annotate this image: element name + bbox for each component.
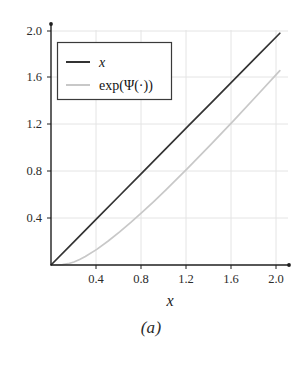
y-tick-label: 1.2 [26,117,42,131]
figure-container: 0.4 0.8 1.2 1.6 2.0 0.4 0.8 1.2 1.6 2.0 … [0,0,302,368]
figure-caption: (a) [0,318,302,338]
x-tick-label: 0.4 [88,272,104,286]
x-tick-label: 1.2 [178,272,194,286]
x-tick-label: 0.8 [133,272,149,286]
x-axis-title: x [165,292,173,309]
y-tick-label: 0.8 [26,164,42,178]
y-tick-labels: 0.4 0.8 1.2 1.6 2.0 [26,24,42,225]
y-axis-arrow-icon [49,22,53,26]
x-tick-labels: 0.4 0.8 1.2 1.6 2.0 [88,272,284,286]
x-tick-label: 2.0 [268,272,284,286]
x-tick-label: 1.6 [223,272,239,286]
legend-label-exp-psi: exp(Ψ(·)) [99,78,153,94]
y-tick-label: 2.0 [26,24,42,38]
x-axis-arrow-icon [287,263,291,267]
y-tick-label: 1.6 [26,70,42,84]
legend-label-x: x [98,55,106,70]
y-tick-label: 0.4 [26,211,42,225]
chart-canvas: 0.4 0.8 1.2 1.6 2.0 0.4 0.8 1.2 1.6 2.0 … [0,0,302,368]
legend: x exp(Ψ(·)) [58,43,172,100]
